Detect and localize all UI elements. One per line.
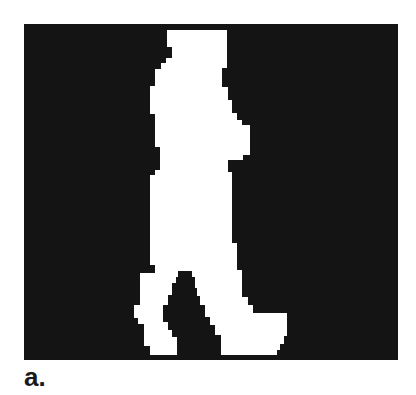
silhouette-figure: a. [0,0,416,395]
silhouette-image [0,0,416,395]
figure-label: a. [24,362,46,393]
